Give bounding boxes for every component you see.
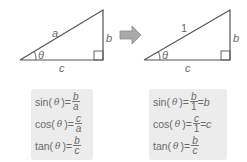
angle-label: θ — [162, 49, 168, 61]
tan-formula: tan(θ)= bc — [153, 136, 199, 155]
cos-formula: cos(θ)= c1 =c — [153, 114, 211, 133]
sin-formula: sin(θ)= b1 =b — [153, 92, 210, 111]
fraction: b1 — [190, 92, 198, 111]
tan-formula: tan(θ)= bc — [35, 136, 81, 155]
base-label: c — [59, 62, 65, 74]
sin-formula: sin(θ)= ba — [35, 92, 80, 111]
left-formula-box: sin(θ)= ba cos(θ)= ca tan(θ)= bc — [31, 89, 93, 160]
right-angle-marker — [94, 51, 103, 60]
fraction: bc — [191, 136, 199, 155]
hypotenuse-label: a — [52, 27, 58, 39]
angle-label: θ — [38, 49, 44, 61]
base-label: c — [185, 62, 191, 74]
hypotenuse-label: 1 — [181, 22, 187, 34]
right-formula-box: sin(θ)= b1 =b cos(θ)= c1 =c tan(θ)= bc — [149, 89, 227, 160]
fraction: bc — [73, 136, 81, 155]
fraction: ba — [72, 92, 80, 111]
fraction: ca — [75, 114, 82, 133]
vertical-label: b — [106, 32, 112, 44]
right-arrow-icon — [120, 26, 141, 44]
left-triangle: a b c θ — [20, 10, 112, 74]
vertical-label: b — [233, 32, 239, 44]
right-angle-marker — [221, 51, 230, 60]
cos-formula: cos(θ)= ca — [35, 114, 82, 133]
angle-arc — [35, 52, 37, 60]
triangle-diagram: a b c θ 1 b c θ — [0, 0, 247, 90]
angle-arc — [159, 52, 161, 60]
fraction: c1 — [193, 114, 200, 133]
right-triangle: 1 b c θ — [144, 10, 239, 74]
